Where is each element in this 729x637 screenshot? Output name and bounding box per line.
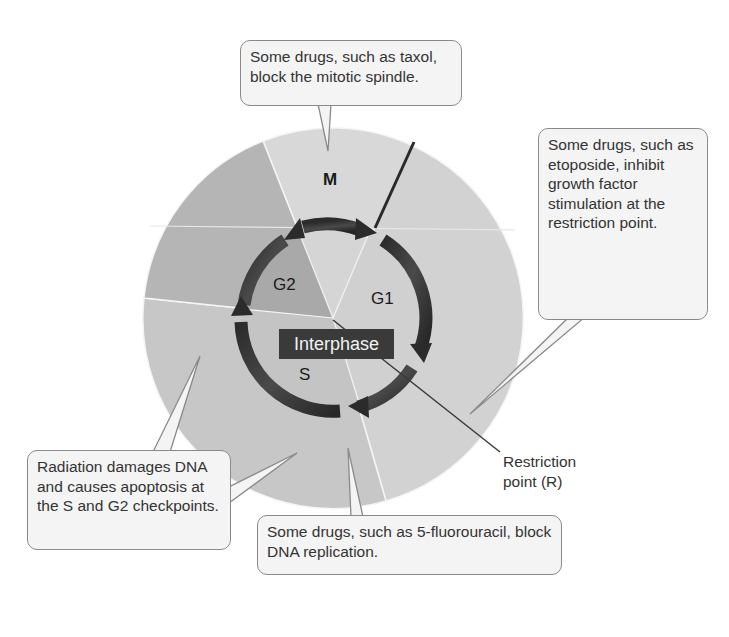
callout-radiation: Radiation damages DNA and causes apoptos… <box>27 450 231 550</box>
phase-label-m: M <box>323 170 337 189</box>
restriction-point-label-line2: point (R) <box>503 472 576 492</box>
interphase-label: Interphase <box>279 329 394 359</box>
callout-taxol: Some drugs, such as taxol, block the mit… <box>240 40 462 106</box>
restriction-point-label: Restriction point (R) <box>503 452 576 491</box>
restriction-point-label-line1: Restriction <box>503 452 576 472</box>
phase-label-g1: G1 <box>371 289 394 308</box>
phase-label-g2: G2 <box>273 275 296 294</box>
callout-etoposide: Some drugs, such as etoposide, inhibit g… <box>538 128 708 320</box>
phase-label-s: S <box>299 365 310 384</box>
callout-fluorouracil: Some drugs, such as 5-fluorouracil, bloc… <box>257 515 562 575</box>
